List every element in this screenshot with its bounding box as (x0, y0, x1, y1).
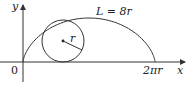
y-axis-label: y (11, 0, 19, 13)
arc-length-label: L = 8r (95, 5, 133, 18)
origin-label: 0 (11, 64, 18, 77)
x-axis-label: x (177, 64, 184, 77)
x-tick-label-2pir: 2πr (142, 64, 163, 77)
radius-label: r (70, 32, 76, 45)
cycloid-diagram: y x 0 2πr L = 8r r (0, 0, 195, 99)
cycloid-curve (23, 18, 155, 62)
